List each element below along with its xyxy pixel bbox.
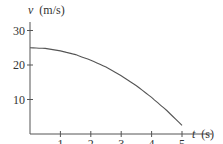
velocity-time-chart: 102030 12345 v (m/s) t (s) <box>0 0 223 144</box>
x-axis-label: t (s) <box>192 127 214 141</box>
y-axis-unit: (m/s) <box>39 3 64 17</box>
velocity-curve <box>30 48 182 126</box>
x-tick-label: 5 <box>179 137 185 144</box>
x-tick-label: 4 <box>149 137 155 144</box>
y-axis-variable: v <box>28 3 34 17</box>
y-axis-label: v (m/s) <box>28 3 65 17</box>
x-ticks: 12345 <box>57 131 185 144</box>
x-axis-variable: t <box>192 127 196 141</box>
x-tick-label: 1 <box>57 137 63 144</box>
y-tick-label: 20 <box>13 58 25 72</box>
y-tick-label: 10 <box>13 93 25 107</box>
y-tick-label: 30 <box>13 24 25 38</box>
x-tick-label: 3 <box>118 137 124 144</box>
x-axis-unit: (s) <box>201 127 214 141</box>
x-tick-label: 2 <box>88 137 94 144</box>
